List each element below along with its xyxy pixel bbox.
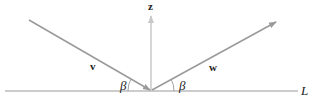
label-L: L	[301, 84, 308, 97]
diagram-graphics	[0, 0, 312, 102]
label-v: v	[90, 61, 96, 72]
angle-arc-right	[171, 79, 174, 91]
angle-arc-left	[128, 79, 131, 91]
vector-w	[152, 22, 276, 90]
reflection-diagram: z v w β β L	[0, 0, 312, 102]
label-z: z	[148, 1, 153, 12]
label-beta-left: β	[120, 79, 126, 92]
label-w: w	[209, 62, 217, 73]
label-beta-right: β	[179, 79, 185, 92]
vector-v	[29, 20, 150, 90]
